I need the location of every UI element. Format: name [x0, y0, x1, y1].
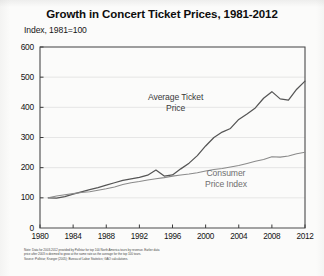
x-axis-tick-label: 2012	[285, 232, 324, 241]
series-label-line-2: Price	[148, 103, 203, 114]
y-axis-tick-label: 600	[4, 42, 34, 52]
note-line-3: Source: Pollstar; Krueger (2005); Bureau…	[24, 257, 214, 261]
y-axis-tick-label: 500	[4, 72, 34, 82]
series-label-line-1: Consumer	[205, 168, 247, 179]
chart-source-note: Note: Data for 2003-2012 provided by Pol…	[24, 248, 214, 261]
y-axis-tick-label: 300	[4, 132, 34, 142]
y-axis-tick-label: 100	[4, 192, 34, 202]
series-label-line-1: Average Ticket	[148, 92, 203, 103]
series-label-line-2: Price Index	[205, 179, 247, 190]
y-axis-tick-label: 0	[4, 223, 34, 233]
series-label-cpi: ConsumerPrice Index	[205, 168, 247, 189]
series-label-ticket-price: Average TicketPrice	[148, 92, 203, 113]
y-axis-tick-label: 400	[4, 102, 34, 112]
y-axis-tick-label: 200	[4, 162, 34, 172]
plot-area: 0100200300400500600198019841988199219962…	[0, 0, 324, 276]
chart-figure: Growth in Concert Ticket Prices, 1981-20…	[0, 0, 324, 276]
